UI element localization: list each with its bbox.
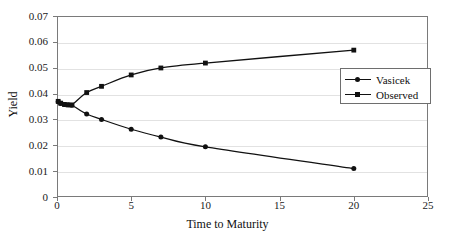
data-point-observed — [84, 90, 89, 95]
y-tick-mark — [53, 94, 57, 95]
legend-item-observed: Observed — [341, 87, 430, 102]
data-point-observed — [158, 66, 163, 71]
series-line-vasicek — [58, 102, 354, 169]
y-tick-mark — [53, 42, 57, 43]
data-point-vasicek — [158, 135, 163, 140]
data-point-vasicek — [99, 117, 104, 122]
data-point-vasicek — [84, 112, 89, 117]
series-layer — [0, 0, 455, 243]
data-point-observed — [99, 84, 104, 89]
legend-line-square-icon — [345, 90, 371, 100]
legend-label: Observed — [371, 89, 418, 101]
yield-curve-chart: 00.010.020.030.040.050.060.07 0510152025… — [0, 0, 455, 243]
y-tick-mark — [53, 119, 57, 120]
x-axis-title: Time to Maturity — [0, 217, 455, 232]
data-point-vasicek — [203, 144, 208, 149]
y-tick-mark — [53, 16, 57, 17]
data-point-vasicek — [351, 166, 356, 171]
y-axis-title: Yield — [6, 75, 21, 135]
data-point-observed — [203, 61, 208, 66]
legend: Vasicek Observed — [340, 68, 431, 104]
series-line-observed — [58, 50, 354, 106]
y-tick-mark — [53, 68, 57, 69]
legend-label: Vasicek — [371, 74, 410, 86]
legend-line-circle-icon — [345, 75, 371, 85]
y-tick-mark — [53, 197, 57, 198]
y-tick-mark — [53, 145, 57, 146]
data-point-observed — [351, 48, 356, 53]
data-point-observed — [129, 73, 134, 78]
legend-item-vasicek: Vasicek — [341, 72, 430, 87]
data-point-vasicek — [129, 127, 134, 132]
data-point-observed — [69, 103, 74, 108]
y-tick-mark — [53, 171, 57, 172]
